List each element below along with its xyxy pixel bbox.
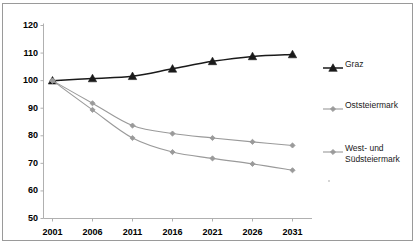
series-2 bbox=[50, 78, 295, 148]
x-tick-label: 2001 bbox=[33, 227, 73, 237]
x-tick-label: 2006 bbox=[73, 227, 113, 237]
data-point bbox=[250, 139, 255, 144]
legend-marker-icon bbox=[322, 144, 344, 156]
y-tick-label: 90 bbox=[12, 103, 38, 113]
x-tick-label: 2031 bbox=[273, 227, 313, 237]
data-point bbox=[210, 156, 215, 161]
legend-label: West- und Südsteiermark bbox=[345, 143, 400, 165]
x-tick-label: 2021 bbox=[193, 227, 233, 237]
y-tick-label: 60 bbox=[12, 185, 38, 195]
legend-marker-icon bbox=[322, 101, 344, 113]
data-point bbox=[90, 101, 95, 106]
legend-label: Oststeiermark bbox=[345, 100, 398, 111]
data-point bbox=[210, 135, 215, 140]
x-tick-label: 2011 bbox=[113, 227, 153, 237]
chart-legend: GrazOststeiermarkWest- und Südsteiermark bbox=[322, 0, 417, 245]
y-tick-label: 50 bbox=[12, 213, 38, 223]
data-point bbox=[130, 135, 135, 140]
data-point bbox=[170, 131, 175, 136]
legend-label: Graz bbox=[345, 59, 363, 70]
chart-figure: 5060708090100110120 20012006201120162021… bbox=[0, 0, 417, 245]
y-tick-label: 120 bbox=[12, 20, 38, 30]
y-tick-label: 100 bbox=[12, 75, 38, 85]
y-tick-label: 110 bbox=[12, 48, 38, 58]
legend-entry: Graz bbox=[322, 59, 363, 72]
legend-entry: Oststeiermark bbox=[322, 100, 398, 113]
data-point bbox=[250, 161, 255, 166]
data-point bbox=[290, 143, 295, 148]
series-3 bbox=[50, 78, 295, 173]
data-point bbox=[290, 168, 295, 173]
series-1 bbox=[48, 50, 296, 84]
legend-entry: West- und Südsteiermark bbox=[322, 143, 400, 165]
chart-series-layer bbox=[48, 50, 296, 173]
y-tick-label: 80 bbox=[12, 130, 38, 140]
x-tick-label: 2016 bbox=[153, 227, 193, 237]
data-point bbox=[130, 123, 135, 128]
y-tick-label: 70 bbox=[12, 158, 38, 168]
x-tick-label: 2026 bbox=[233, 227, 273, 237]
data-point bbox=[170, 149, 175, 154]
chart-axes bbox=[41, 24, 313, 222]
legend-marker-icon bbox=[322, 60, 344, 72]
